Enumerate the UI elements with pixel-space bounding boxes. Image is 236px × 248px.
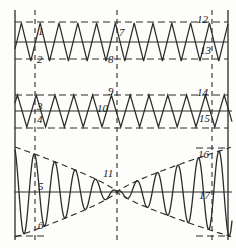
reference-label-2: 2 xyxy=(37,54,43,65)
reference-label-7: 7 xyxy=(119,27,125,38)
reference-label-4: 4 xyxy=(37,114,43,125)
reference-label-13: 13 xyxy=(200,45,211,56)
reference-label-1: 1 xyxy=(38,26,44,37)
reference-label-5: 5 xyxy=(38,181,44,192)
reference-label-6: 6 xyxy=(38,220,44,231)
reference-label-8: 8 xyxy=(108,54,114,65)
reference-label-9: 9 xyxy=(108,86,114,97)
figure-canvas: 1234567891011121314151617 xyxy=(0,0,236,248)
reference-label-16: 16 xyxy=(198,149,209,160)
reference-label-12: 12 xyxy=(197,14,208,25)
reference-label-10: 10 xyxy=(97,103,108,114)
reference-label-17: 17 xyxy=(199,190,210,201)
reference-label-14: 14 xyxy=(197,87,208,98)
reference-label-15: 15 xyxy=(199,113,210,124)
waveform-diagram xyxy=(0,0,236,248)
reference-label-11: 11 xyxy=(103,168,113,179)
reference-label-3: 3 xyxy=(37,101,43,112)
